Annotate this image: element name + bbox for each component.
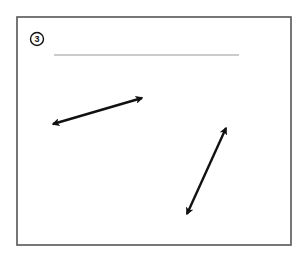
item-number-badge: 3 xyxy=(31,33,44,46)
worksheet-canvas: 3 xyxy=(0,0,308,263)
worksheet-frame xyxy=(17,17,291,245)
item-number: 3 xyxy=(34,34,39,44)
